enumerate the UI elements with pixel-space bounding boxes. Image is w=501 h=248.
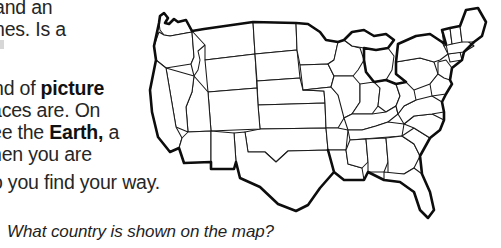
scan-artifact: [0, 40, 4, 49]
passage-line-3: ee the Earth, a: [0, 122, 119, 143]
passage-line-5: o you find your way.: [0, 172, 160, 193]
passage-keyword-picture: picture: [41, 77, 105, 99]
passage-line-3-text-b: a: [103, 121, 119, 143]
passage-clipped-line-2: nes. Is a: [0, 19, 66, 40]
passage-line-2: aces are. On: [0, 100, 100, 121]
state-borders: [150, 8, 486, 218]
passage-line-3-text-a: ee the: [0, 121, 49, 143]
passage-line-4: hen you are: [0, 144, 92, 165]
passage-line-1-text: nd of: [0, 77, 41, 99]
passage-keyword-earth: Earth,: [49, 121, 103, 143]
worksheet-page: and an nes. Is a nd of picture aces are.…: [0, 0, 501, 248]
united-states-map: [148, 2, 501, 238]
passage-clipped-line-1: and an: [0, 0, 52, 18]
passage-line-1: nd of picture: [0, 78, 104, 99]
map-svg: [148, 2, 501, 238]
